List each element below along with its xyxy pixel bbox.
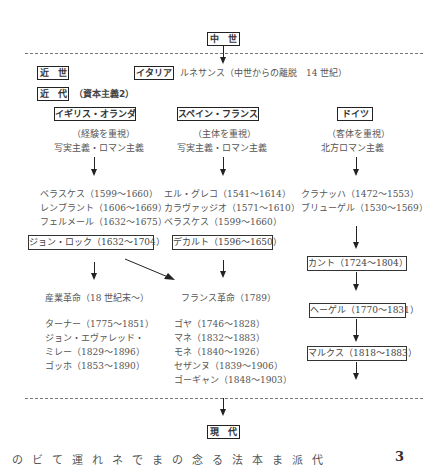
later-artist-item: ミレー（1829～1896） xyxy=(45,347,145,358)
emphasis-object: （客体を重視） xyxy=(327,129,390,140)
philosopher-kant-box: カント（1724～1804） xyxy=(307,256,407,271)
period-medieval-box: 中 世 xyxy=(207,32,240,46)
artist-item: ベラスケス（1599～1660） xyxy=(164,217,282,228)
arrow-down-icon xyxy=(220,409,226,416)
arrow-down-icon xyxy=(220,57,226,64)
later-artist-item: セザンヌ（1839～1906） xyxy=(174,361,283,372)
artist-item: エル・グレコ（1541～1614） xyxy=(164,189,291,200)
artist-item: フェルメール（1632～1675） xyxy=(40,217,167,228)
artist-item: ブリューゲル（1530～1569） xyxy=(301,203,428,214)
later-artist-item: モネ（1840～1926） xyxy=(174,347,265,358)
arrow-hegel-marx-line xyxy=(356,319,357,336)
philosopher-hegel-box: ヘーゲル（1770～1831） xyxy=(309,303,406,318)
philosopher-marx-box: マルクス（1818～1883） xyxy=(307,346,407,361)
artist-item: クラナッハ（1472～1553） xyxy=(301,189,419,200)
arrow-locke-to-revolution-icon xyxy=(120,256,180,286)
artist-item: カラヴァッジオ（1571～1610） xyxy=(164,203,300,214)
philosopher-descartes-box: デカルト（1596～1650） xyxy=(172,235,273,250)
later-artist-item: マネ（1832～1883） xyxy=(174,333,265,344)
arrow-down-icon xyxy=(353,373,359,380)
artist-item: ベラスケス（1599～1660） xyxy=(40,189,158,200)
modern-note: （資本主義2） xyxy=(74,89,134,100)
arrow-down-icon xyxy=(220,169,226,176)
column-header-spain-france: スペイン・フランス xyxy=(177,107,259,121)
period-early-modern-box: 近 世 xyxy=(37,66,69,80)
later-artist-item: ジョン・エヴァレッド・ xyxy=(45,333,144,344)
arrow-down-icon xyxy=(353,284,359,291)
movement-col2: 写実主義・ロマン主義 xyxy=(177,143,267,154)
column-header-england-netherlands: イギリス・オランダ xyxy=(54,107,136,121)
emphasis-experience: （経験を重視） xyxy=(72,129,135,140)
period-modern-box: 近 代 xyxy=(37,87,69,101)
later-artist-item: ゴヤ（1746～1828） xyxy=(174,319,265,330)
artist-item: レンブラント（1606～1669） xyxy=(40,203,167,214)
arrow-down-icon xyxy=(353,335,359,342)
event-french-revolution: フランス革命（1789） xyxy=(181,293,276,304)
arrow-down-icon xyxy=(353,169,359,176)
philosopher-locke-box: ジョン・ロック（1632～1704） xyxy=(28,235,154,250)
movement-col3: 北方ロマン主義 xyxy=(321,143,384,154)
arrow-down-icon xyxy=(353,242,359,249)
movement-col1: 写実主義・ロマン主義 xyxy=(54,143,144,154)
later-artist-item: ゴーギャン（1848～1903） xyxy=(174,375,292,386)
later-artist-item: ターナー（1775～1851） xyxy=(45,319,154,330)
later-artist-item: ゴッホ（1853～1890） xyxy=(45,361,145,372)
divider-top xyxy=(25,53,423,54)
emphasis-subject: （主体を重視） xyxy=(193,129,256,140)
event-industrial-revolution: 産業革命（18 世紀末～） xyxy=(45,293,149,304)
arrow-down-icon xyxy=(91,169,97,176)
italy-box: イタリア xyxy=(134,66,174,80)
footer-text: のビて運れネでまの念る法本ま派代 xyxy=(12,451,332,467)
divider-bottom xyxy=(25,398,423,399)
period-contemporary-box: 現 代 xyxy=(207,425,240,439)
page-number: 3 xyxy=(395,449,404,464)
column-header-germany: ドイツ xyxy=(337,107,373,121)
arrow-down-icon xyxy=(91,273,97,280)
arrow-down-icon xyxy=(220,271,226,278)
arrow-col3-kant-line xyxy=(356,226,357,243)
italy-renaissance-note: ルネサンス（中世からの離脱 14 世紀） xyxy=(180,68,347,79)
